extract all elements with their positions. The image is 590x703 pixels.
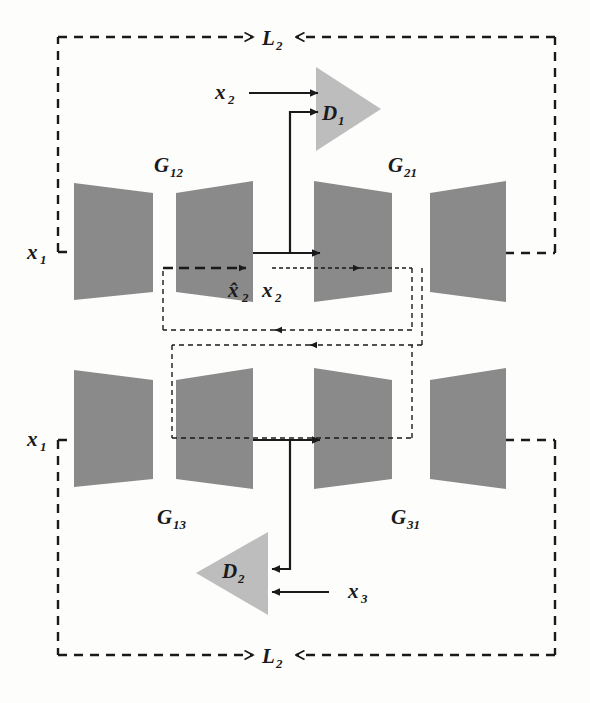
label-input-x2: x 2: [214, 80, 235, 107]
label-loss-bottom-sub: 2: [275, 656, 283, 671]
decoder-g12: [176, 181, 253, 302]
encoder-g21: [314, 181, 392, 302]
label-generator-g12: G 12: [154, 153, 184, 180]
label-input-x1-top: x 1: [26, 240, 47, 267]
label-generator-g31: G 31: [391, 505, 420, 532]
label-loss-top: L 2: [261, 26, 283, 53]
decoder-g21: [430, 181, 506, 302]
label-x2hat-sub: 2: [241, 290, 249, 305]
encoder-g13: [74, 370, 153, 487]
label-loss-top-sub: 2: [275, 38, 283, 53]
label-latent-x2-sub: 2: [274, 290, 282, 305]
label-d2-main: D: [221, 559, 237, 583]
edge-latent-branch-to-d1: [290, 112, 318, 253]
label-g12-sub: 12: [170, 165, 184, 180]
label-input-x1-bottom: x 1: [26, 427, 47, 454]
label-latent-x2: x 2: [261, 278, 282, 305]
label-input-x3: x 3: [347, 579, 368, 606]
edge-latent-branch-to-d2: [272, 440, 290, 569]
label-d1-sub: 1: [338, 113, 345, 128]
decoder-g13: [176, 368, 253, 489]
label-g13-sub: 13: [173, 517, 187, 532]
label-x1-bottom-sub: 1: [40, 439, 47, 454]
decoder-g31: [430, 368, 506, 489]
label-g31-main: G: [391, 505, 406, 529]
top-solid-edges: [249, 93, 320, 253]
architecture-diagram: L 2 L 2 x 2 D 1 D 2 x 3 G: [0, 0, 590, 703]
label-generator-g13: G 13: [157, 505, 187, 532]
label-input-x2-sub: 2: [227, 92, 235, 107]
label-g31-sub: 31: [406, 517, 420, 532]
label-input-x2-main: x: [214, 80, 226, 104]
label-loss-bottom-main: L: [261, 644, 275, 668]
label-g13-main: G: [157, 505, 172, 529]
label-x1-top-sub: 1: [40, 252, 47, 267]
label-g21-sub: 21: [403, 165, 417, 180]
encoder-g31: [314, 368, 392, 489]
label-x1-bottom-main: x: [26, 427, 38, 451]
label-g21-main: G: [388, 153, 403, 177]
label-g12-main: G: [154, 153, 169, 177]
diagram-canvas: L 2 L 2 x 2 D 1 D 2 x 3 G: [0, 0, 590, 703]
label-loss-bottom: L 2: [261, 644, 283, 671]
label-x1-top-main: x: [26, 240, 38, 264]
label-input-x3-main: x: [347, 579, 359, 603]
label-x2hat-main: x̂: [227, 278, 239, 302]
label-generator-g21: G 21: [388, 153, 417, 180]
label-latent-x2-main: x: [261, 278, 273, 302]
label-d2-sub: 2: [237, 571, 245, 586]
label-d1-main: D: [321, 101, 337, 125]
label-loss-top-main: L: [261, 26, 275, 50]
encoder-g12: [74, 183, 153, 300]
label-input-x3-sub: 3: [360, 591, 368, 606]
